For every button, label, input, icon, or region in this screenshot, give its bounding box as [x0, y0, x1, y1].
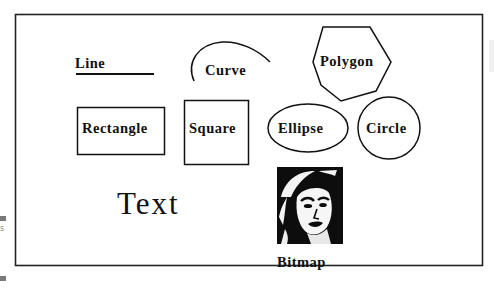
left-edge-mark-top: [0, 216, 6, 221]
ellipse-label: Ellipse: [278, 121, 323, 136]
polygon-label: Polygon: [320, 54, 373, 69]
left-edge-fragment-text: s: [0, 224, 4, 233]
bitmap-portrait-image: [277, 167, 343, 244]
line-label: Line: [75, 56, 105, 71]
left-edge-mark-bottom: [0, 276, 6, 281]
text-sample: Text: [117, 188, 180, 219]
shapes-canvas: [0, 0, 494, 291]
bitmap-label: Bitmap: [277, 255, 326, 270]
circle-label: Circle: [366, 121, 407, 136]
square-label: Square: [189, 121, 236, 136]
rectangle-label: Rectangle: [82, 121, 148, 136]
right-edge-ghost-block: [489, 40, 494, 72]
curve-label: Curve: [205, 63, 246, 78]
